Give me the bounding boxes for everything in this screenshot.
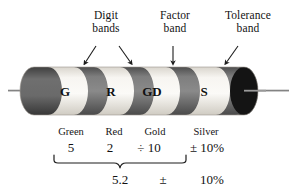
value-green: 5 xyxy=(50,140,92,155)
callout-tolerance-band: Tolerance band xyxy=(213,9,283,35)
result-value: 5.2 xyxy=(99,172,141,187)
callout-digit-bands: Digit bands xyxy=(78,9,134,35)
color-name-green: Green xyxy=(50,126,92,138)
color-name-silver: Silver xyxy=(183,126,229,138)
band-letter-silver: S xyxy=(194,85,214,98)
callout-factor-band: Factor band xyxy=(151,9,199,35)
value-gold: ÷ 10 xyxy=(124,140,174,155)
grouping-underbrace xyxy=(52,154,188,170)
callout-digit-line2: bands xyxy=(78,22,134,35)
callout-digit-line1: Digit xyxy=(94,9,118,21)
result-tolerance: 10% xyxy=(190,172,234,187)
value-silver: ± 10% xyxy=(181,140,233,155)
color-name-red: Red xyxy=(97,126,131,138)
band-letter-green: G xyxy=(55,85,75,98)
callout-tolerance-line1: Tolerance xyxy=(225,9,271,21)
callout-factor-line2: band xyxy=(151,22,199,35)
lead-wire-right-inner xyxy=(244,90,266,92)
color-name-gold: Gold xyxy=(137,126,173,138)
band-letter-red: R xyxy=(101,85,121,98)
result-plus-minus: ± xyxy=(150,172,176,187)
callout-tolerance-line2: band xyxy=(213,22,283,35)
value-red: 2 xyxy=(97,140,123,155)
callout-factor-line1: Factor xyxy=(160,9,190,21)
diagram-canvas: Digit bands Factor band Tolerance band xyxy=(0,0,297,196)
band-letter-gold: GD xyxy=(138,85,166,98)
